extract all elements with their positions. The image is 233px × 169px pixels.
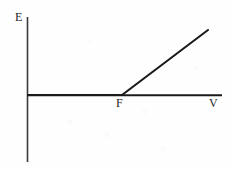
threshold-label: F: [116, 97, 123, 109]
rising-segment-line: [122, 30, 208, 95]
y-axis-label: E: [15, 11, 22, 23]
x-axis-label: V: [209, 97, 218, 109]
graph-screenshot: E F V: [0, 0, 233, 169]
plot-canvas: [0, 0, 233, 169]
